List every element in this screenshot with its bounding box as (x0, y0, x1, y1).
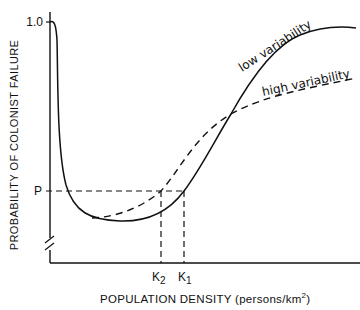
high-variability-label: high variability (261, 67, 351, 99)
high-variability-curve (92, 78, 356, 218)
k1-label: K1 (178, 270, 192, 286)
k2-label: K2 (152, 270, 166, 286)
axis-break-icon (45, 236, 54, 250)
low-variability-curve (50, 22, 356, 222)
chart: 1.0 P low variability high variability K… (0, 0, 360, 310)
low-variability-label: low variability (236, 17, 314, 74)
x-axis-label: POPULATION DENSITY (persons/km2) (100, 291, 310, 305)
y-axis-label: PROBABILITY OF COLONIST FAILURE (8, 40, 20, 251)
y-tick-label-1: 1.0 (26, 15, 43, 29)
y-tick-label-p: P (34, 184, 42, 198)
